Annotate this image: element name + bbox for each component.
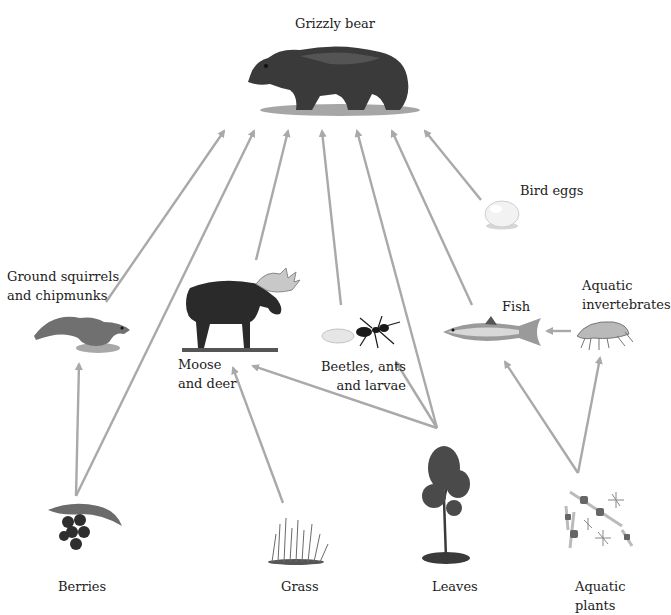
berries-illustration [42, 500, 122, 554]
label-beetles-ants-larvae: Beetles, ants and larvae [321, 357, 406, 395]
arrow-aquaticplants-to-fish [505, 362, 578, 473]
label-aquatic-plants: Aquatic plants [575, 577, 626, 615]
arrow-berries-to-squirrel [76, 364, 79, 496]
bird-egg-illustration [482, 198, 522, 232]
grizzly-bear-illustration [240, 36, 420, 120]
amphipod-illustration [573, 316, 633, 352]
label-fish: Fish [502, 297, 530, 316]
label-grass: Grass [281, 577, 319, 596]
tree-leaves-illustration [414, 440, 480, 566]
arrow-eggs-to-bear [425, 131, 481, 200]
label-aquatic-invertebrates: Aquatic invertebrates [582, 276, 671, 314]
label-moose-deer: Moose and deer [178, 355, 237, 393]
grass-illustration [266, 514, 330, 566]
arrow-grass-to-moose [233, 368, 283, 503]
cropped-title [6, 0, 256, 4]
label-bird-eggs: Bird eggs [520, 181, 583, 200]
ant-and-larva-illustration [320, 316, 404, 352]
label-leaves: Leaves [432, 577, 478, 596]
aquatic-plants-illustration [562, 486, 636, 556]
label-grizzly-bear: Grizzly bear [295, 14, 375, 33]
label-berries: Berries [58, 577, 106, 596]
arrow-moose-to-bear [256, 131, 288, 260]
arrow-aquaticplants-to-invertebrates [578, 358, 600, 473]
arrow-beetles-to-bear [322, 131, 341, 305]
label-ground-squirrels: Ground squirrels and chipmunks [7, 267, 119, 305]
squirrel-illustration [32, 308, 136, 356]
fish-illustration [441, 316, 547, 348]
moose-illustration [180, 268, 304, 356]
arrow-fish-to-bear [392, 131, 472, 305]
